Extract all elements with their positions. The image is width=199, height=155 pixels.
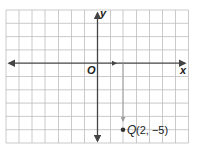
point-q-marker bbox=[121, 127, 126, 132]
x-axis-translation-arrowhead-icon bbox=[112, 61, 117, 66]
origin-label: O bbox=[87, 64, 96, 76]
point-q-name: Q bbox=[127, 123, 136, 137]
point-q-coordinates: (2, −5) bbox=[136, 124, 168, 136]
coordinate-plane: y x O Q (2, −5) bbox=[0, 0, 199, 155]
x-axis-label: x bbox=[179, 64, 187, 76]
y-axis-label: y bbox=[99, 7, 107, 19]
